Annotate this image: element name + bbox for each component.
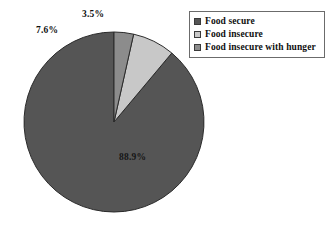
- legend-item-food-insecure[interactable]: Food insecure: [194, 28, 320, 41]
- chart-legend: Food secure Food insecure Food insecure …: [189, 11, 325, 58]
- legend-label-food-insecure-with-hunger: Food insecure with hunger: [205, 42, 316, 53]
- legend-swatch-icon-food-insecure: [194, 31, 201, 38]
- slice-label-food-insecure-with-hunger: 3.5%: [82, 9, 104, 19]
- legend-item-food-insecure-with-hunger[interactable]: Food insecure with hunger: [194, 41, 320, 54]
- pie-slice-group: [24, 32, 204, 212]
- legend-swatch-icon-food-secure: [194, 18, 201, 25]
- slice-label-food-insecure: 7.6%: [36, 25, 58, 35]
- chart-page: 88.9% 7.6% 3.5% Food secure Food insecur…: [0, 0, 328, 229]
- legend-label-food-insecure: Food insecure: [205, 29, 263, 40]
- legend-label-food-secure: Food secure: [205, 16, 255, 27]
- slice-label-food-secure: 88.9%: [119, 152, 146, 162]
- legend-swatch-icon-food-insecure-with-hunger: [194, 44, 201, 51]
- legend-item-food-secure[interactable]: Food secure: [194, 15, 320, 28]
